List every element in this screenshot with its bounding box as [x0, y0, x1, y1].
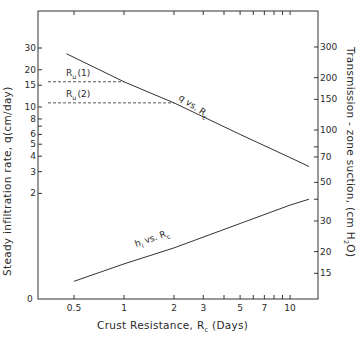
- right-y-tick-label: 20: [320, 247, 332, 257]
- left-y-axis-title: Steady infiltration rate, q(cm/day): [1, 86, 13, 276]
- q-vs-rc-line: [66, 54, 309, 167]
- left-y-tick-label: 30: [25, 43, 37, 53]
- left-y-tick-label: 15: [25, 80, 36, 90]
- right-y-tick-label: 15: [320, 268, 331, 278]
- q-series-label: q vs. Rc: [175, 92, 211, 122]
- x-tick-label: 2: [171, 303, 177, 313]
- x-tick-label: 5: [237, 303, 243, 313]
- left-y-tick-label: 20: [25, 65, 37, 75]
- right-y-tick-label: 200: [320, 73, 337, 83]
- x-axis-title: Crust Resistance, Rc (Days): [97, 319, 248, 334]
- plot-frame: [38, 11, 318, 299]
- x-tick-label: 1: [121, 303, 127, 313]
- x-tick-label: 0.5: [67, 303, 81, 313]
- right-y-tick-label: 50: [320, 177, 332, 187]
- x-tick-label: 3: [200, 303, 206, 313]
- left-y-axis-ticks: 23456810152030: [25, 43, 42, 198]
- left-y-tick-label: 3: [30, 167, 36, 177]
- left-y-tick-label: 5: [30, 139, 36, 149]
- right-y-axis-title: Transmission - zone suction, (cm H2O): [342, 46, 357, 257]
- reference-lines: Ru(1)Ru(2): [48, 68, 174, 103]
- hi-vs-rc-line: [74, 199, 309, 281]
- ru-label: Ru(2): [66, 89, 90, 102]
- hi-series-label: hi vs. Rc: [133, 228, 172, 252]
- left-y-tick-label: 6: [30, 129, 36, 139]
- origin-label: 0: [27, 294, 33, 304]
- right-y-tick-label: 100: [320, 125, 337, 135]
- left-y-tick-label: 4: [30, 151, 36, 161]
- ru-label: Ru(1): [66, 68, 90, 81]
- x-tick-label: 7: [262, 303, 268, 313]
- right-y-tick-label: 300: [320, 42, 337, 52]
- right-y-tick-label: 150: [320, 94, 337, 104]
- left-y-tick-label: 10: [25, 102, 37, 112]
- x-axis-ticks: 0.51235710: [67, 11, 296, 313]
- x-tick-label: 10: [284, 303, 296, 313]
- left-y-tick-label: 8: [30, 114, 36, 124]
- chart: 0.51235710 23456810152030 15203050701001…: [0, 0, 363, 339]
- right-y-tick-label: 70: [320, 152, 332, 162]
- left-y-tick-label: 2: [30, 188, 36, 198]
- right-y-tick-label: 30: [320, 216, 332, 226]
